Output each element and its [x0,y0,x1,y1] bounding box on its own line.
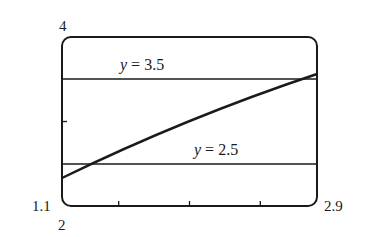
label-y-2.5: y = 2.5 [192,141,238,159]
graph-window: y = 3.5 y = 2.5 4 2 1.1 2.9 [0,0,368,237]
function-curve [62,74,317,178]
label-y-3.5: y = 3.5 [118,56,164,74]
x-min-label: 1.1 [32,198,51,214]
x-max-label: 2.9 [324,198,343,214]
y-max-label: 4 [59,18,67,34]
y-min-label: 2 [58,217,66,233]
